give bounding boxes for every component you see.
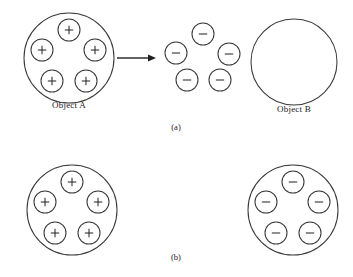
charge-positive: [75, 70, 97, 92]
panel-a-caption: (a): [151, 122, 201, 132]
object-b-label: Object B: [239, 104, 349, 114]
object-a: [24, 13, 114, 103]
charge-positive: [31, 39, 53, 61]
object-b-left: [27, 165, 117, 255]
charge-negative: [165, 42, 187, 64]
plus-sign-icon: [82, 77, 90, 85]
charge-positive: [84, 39, 106, 61]
charge-positive: [87, 191, 109, 213]
plus-sign-icon: [38, 46, 46, 54]
charge-negative: [299, 222, 321, 244]
charge-negative: [209, 69, 231, 91]
transfer-arrow-icon: [117, 54, 156, 61]
plus-sign-icon: [65, 26, 73, 34]
charge-negative: [192, 23, 214, 45]
charge-positive: [44, 222, 66, 244]
arrow-head: [148, 54, 156, 61]
object-b-right: [248, 165, 338, 255]
charge-positive: [61, 171, 83, 193]
charge-negative: [255, 191, 277, 213]
plus-sign-icon: [68, 178, 76, 186]
charge-negative: [176, 69, 198, 91]
object-b-shell-circle: [251, 19, 337, 105]
charge-positive: [58, 19, 80, 41]
plus-sign-icon: [85, 229, 93, 237]
charge-positive: [34, 191, 56, 213]
panel-b-caption: (b): [151, 252, 201, 262]
charge-transfer-figure: Object A Object B (a) (b): [0, 0, 353, 277]
charge-negative: [282, 171, 304, 193]
object-b-right-shell-circle: [248, 165, 338, 255]
charge-negative: [218, 43, 240, 65]
figure-canvas: [0, 0, 353, 277]
plus-sign-icon: [41, 198, 49, 206]
plus-sign-icon: [94, 198, 102, 206]
plus-sign-icon: [48, 77, 56, 85]
charge-negative: [308, 191, 330, 213]
plus-sign-icon: [51, 229, 59, 237]
free-charges: [165, 23, 240, 91]
object-b: [251, 19, 337, 105]
plus-sign-icon: [91, 46, 99, 54]
panel-b: [27, 165, 338, 255]
object-a-label: Object A: [14, 100, 124, 110]
charge-positive: [78, 222, 100, 244]
panel-a: [24, 13, 337, 105]
charge-positive: [41, 70, 63, 92]
charge-negative: [265, 222, 287, 244]
